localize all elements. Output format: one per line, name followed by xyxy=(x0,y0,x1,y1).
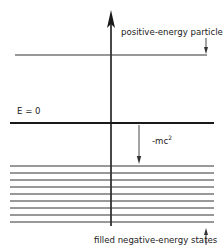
mass-gap-exponent: 2 xyxy=(168,134,172,141)
positive-particle-arrow xyxy=(204,38,208,54)
dirac-sea-diagram xyxy=(0,0,224,251)
mass-gap-base: -mc xyxy=(152,136,168,146)
mass-gap-arrow xyxy=(137,125,141,164)
filled-states-label: filled negative-energy states xyxy=(94,236,217,245)
filled-negative-levels xyxy=(10,166,214,222)
positive-particle-label: positive-energy particle xyxy=(121,28,223,37)
arrow-down-icon xyxy=(204,47,208,54)
zero-energy-label: E = 0 xyxy=(17,107,41,116)
arrow-up-icon xyxy=(204,228,208,235)
mass-gap-label: -mc2 xyxy=(152,135,172,146)
arrow-down-icon xyxy=(137,156,141,164)
